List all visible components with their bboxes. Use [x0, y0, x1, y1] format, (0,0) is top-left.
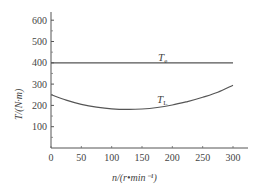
y-axis-title: T/(N·m) — [13, 88, 25, 120]
y-tick-label: 100 — [32, 121, 47, 132]
torque-speed-chart: 100200300400500600 050100150200250300 Te… — [0, 0, 260, 187]
series-lines — [51, 63, 233, 110]
y-tick-label: 400 — [32, 57, 47, 68]
axes — [51, 12, 248, 148]
y-tick-label: 600 — [32, 15, 47, 26]
x-tick-label: 300 — [226, 152, 241, 163]
y-tick-label: 300 — [32, 79, 47, 90]
y-tick-label: 500 — [32, 36, 47, 47]
x-tick-label: 150 — [135, 152, 150, 163]
x-axis-title: n/(r•min⁻¹) — [112, 172, 157, 184]
series-label-tl: TL — [157, 93, 167, 107]
series-line-t-l — [51, 85, 233, 109]
x-tick-label: 200 — [165, 152, 180, 163]
x-tick-label: 250 — [195, 152, 210, 163]
series-labels: Te TL — [157, 51, 167, 107]
x-tick-label: 0 — [49, 152, 54, 163]
x-tick-label: 100 — [104, 152, 119, 163]
series-label-te: Te — [158, 51, 167, 65]
x-ticks: 050100150200250300 — [49, 146, 241, 163]
y-tick-label: 200 — [32, 100, 47, 111]
x-tick-label: 50 — [76, 152, 86, 163]
